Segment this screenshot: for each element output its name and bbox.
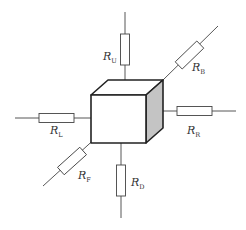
label-r-right: RR — [186, 124, 201, 139]
cube — [91, 80, 163, 143]
resistor-back: RB — [163, 26, 218, 80]
resistor-down: RD — [117, 143, 145, 218]
label-r-down: RD — [130, 176, 145, 191]
resistor-right: RR — [158, 107, 236, 140]
label-r-back: RB — [191, 61, 205, 76]
cube-front-face — [91, 95, 146, 143]
cube-resistor-diagram: RU RB RL RF RR RD — [0, 0, 246, 230]
label-r-front: RF — [77, 169, 91, 184]
resistor-left: RL — [15, 114, 96, 140]
label-r-up: RU — [102, 50, 117, 65]
label-r-left: RL — [49, 124, 63, 139]
resistor-up: RU — [102, 12, 130, 87]
